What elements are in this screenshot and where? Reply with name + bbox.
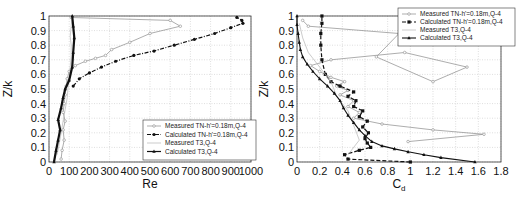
marker [320,14,323,17]
x-tick-label: 1.8 [493,165,508,177]
marker [298,40,301,43]
x-tick-label: 1.2 [425,165,440,177]
marker [343,80,346,83]
marker [330,76,333,79]
marker [409,160,412,163]
y-tick-label: 0.4 [279,98,294,110]
legend-label: Calculated TN-h'=0.18m,Q-4 [420,18,503,26]
y-tick-label: 0.1 [279,141,294,153]
legend-label: Measured T3,Q-4 [420,26,471,34]
x-tick-label: 0.8 [380,165,395,177]
x-axis-label: Cd [392,177,405,193]
marker [354,99,357,102]
legend-marker [407,20,410,23]
marker [363,137,366,140]
marker [338,84,341,87]
marker [330,59,333,62]
marker [319,32,322,35]
x-tick-label: 0.2 [312,165,327,177]
marker [466,66,469,69]
marker [319,44,322,47]
y-tick-label: 1 [288,10,294,22]
marker [403,51,406,54]
y-tick-label: 0.9 [279,25,294,37]
y-axis-label: Z/k [257,80,271,98]
marker [339,94,342,97]
marker [361,125,364,128]
marker [375,56,378,59]
legend-label: Calculated T3,Q-4 [420,34,473,42]
marker [369,146,372,149]
marker [358,149,361,152]
x-tick-label: 0.6 [357,165,372,177]
marker [432,129,435,132]
legend-label: Measured TN-h'=0.18m,Q-4 [420,10,501,18]
y-tick-label: 0.3 [279,112,294,124]
marker [301,19,304,22]
y-tick-label: 0.7 [279,54,294,66]
y-tick-label: 0 [288,156,294,168]
marker [352,90,355,93]
y-tick-label: 0.2 [279,127,294,139]
marker [318,70,321,73]
x-tick-label: 0 [294,165,300,177]
x-tick-label: 1.6 [471,165,486,177]
marker [483,133,486,136]
marker [367,131,370,134]
y-tick-label: 0.8 [279,39,294,51]
cd-profile-chart: 00.20.40.60.811.21.41.61.800.10.20.30.40… [0,0,522,202]
marker [301,55,304,58]
marker [381,123,384,126]
marker [358,111,361,114]
figure: 0100200300400500600700800900100000.10.20… [0,0,522,202]
marker [346,95,349,98]
marker [307,25,310,28]
x-tick-label: 1.4 [448,165,463,177]
x-tick-label: 1 [407,165,413,177]
marker [347,105,350,108]
y-tick-label: 0.6 [279,68,294,80]
marker [346,157,349,160]
marker [320,22,323,25]
marker [352,117,355,120]
marker [352,105,355,108]
y-tick-label: 0.5 [279,83,294,95]
marker [361,109,364,112]
legend-marker [408,13,411,16]
marker [407,140,410,143]
marker [295,23,298,26]
marker [358,115,361,118]
marker [432,80,435,83]
x-tick-label: 0.4 [335,165,350,177]
marker [320,58,323,61]
marker [366,141,369,144]
marker [299,48,302,51]
marker [343,153,346,156]
marker [366,120,369,123]
legend: Measured TN-h'=0.18m,Q-4Calculated TN-h'… [398,8,515,46]
